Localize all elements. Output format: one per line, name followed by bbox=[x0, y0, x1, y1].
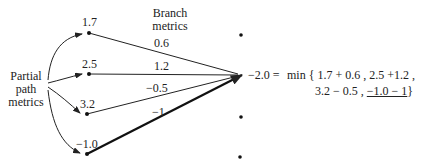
branch-metric-1: 0.6 bbox=[154, 37, 169, 50]
equation-line-2: 3.2 − 0.5 , −1.0 − 1} bbox=[315, 85, 413, 98]
state-dot-top bbox=[239, 33, 243, 37]
partial-path-label: Partial path metrics bbox=[4, 70, 48, 109]
branch-metrics-label: Branch metrics bbox=[145, 7, 195, 33]
arrow-to-node-1 bbox=[48, 34, 82, 80]
label-line: metrics bbox=[4, 96, 48, 109]
branch-metric-4: −1 bbox=[152, 106, 165, 119]
state-dot-bottom bbox=[238, 155, 242, 159]
arrow-to-node-2 bbox=[48, 74, 82, 83]
node-1 bbox=[87, 31, 91, 35]
branch-metric-2: 1.2 bbox=[154, 60, 169, 73]
state-dot-lower bbox=[239, 115, 243, 119]
equation-selected-term: −1.0 − 1 bbox=[367, 84, 408, 98]
node-metric-3: 3.2 bbox=[80, 98, 95, 111]
node-metric-1: 1.7 bbox=[82, 16, 97, 29]
equation-brace: } bbox=[407, 84, 413, 98]
node-3 bbox=[85, 112, 89, 116]
equation-term: 3.2 − 0.5 , bbox=[315, 84, 364, 98]
node-metric-4: −1.0 bbox=[76, 138, 98, 151]
node-2 bbox=[87, 72, 91, 76]
node-metric-2: 2.5 bbox=[82, 58, 97, 71]
node-4 bbox=[85, 152, 89, 156]
arrow-to-node-3 bbox=[48, 87, 80, 113]
branch-2 bbox=[89, 74, 238, 75]
equation-line-1: min { 1.7 + 0.6 , 2.5 +1.2 , bbox=[287, 69, 415, 82]
branch-metric-3: −0.5 bbox=[146, 82, 168, 95]
equation-result: −2.0 = bbox=[248, 69, 280, 82]
label-line: metrics bbox=[145, 20, 195, 33]
